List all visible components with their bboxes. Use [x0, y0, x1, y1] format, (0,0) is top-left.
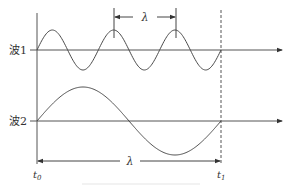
wave2-wavelength-marker: λ	[38, 155, 220, 168]
wave1-label: 波1	[9, 44, 27, 57]
t0-label: t0	[33, 169, 42, 182]
faint-caption	[82, 183, 200, 185]
wavelength-label-top: λ	[141, 11, 149, 24]
wavelength-label-bottom: λ	[126, 155, 134, 168]
t1-label: t1	[217, 169, 226, 182]
wave-diagram: 波1 波2 λ λ t0 t1	[0, 0, 292, 189]
wave2-label: 波2	[9, 115, 27, 128]
wave1-wavelength-marker: λ	[114, 8, 176, 38]
